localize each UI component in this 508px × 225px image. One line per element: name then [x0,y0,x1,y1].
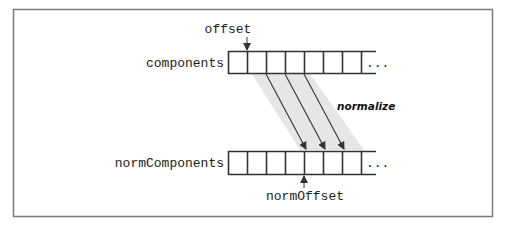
components-ellipsis: ... [366,56,389,71]
norm-components-array [228,151,376,175]
normalize-band [252,74,364,150]
norm-components-ellipsis: ... [366,156,389,171]
offset-label: offset [205,22,252,37]
norm-offset-label: normOffset [266,189,344,204]
components-array [228,51,376,74]
components-label: components [146,56,224,71]
normalize-label: normalize [337,100,395,112]
normalize-diagram: offset components ... normalize normComp… [0,0,508,225]
figure-frame [14,10,493,217]
norm-components-label: normComponents [115,156,224,171]
